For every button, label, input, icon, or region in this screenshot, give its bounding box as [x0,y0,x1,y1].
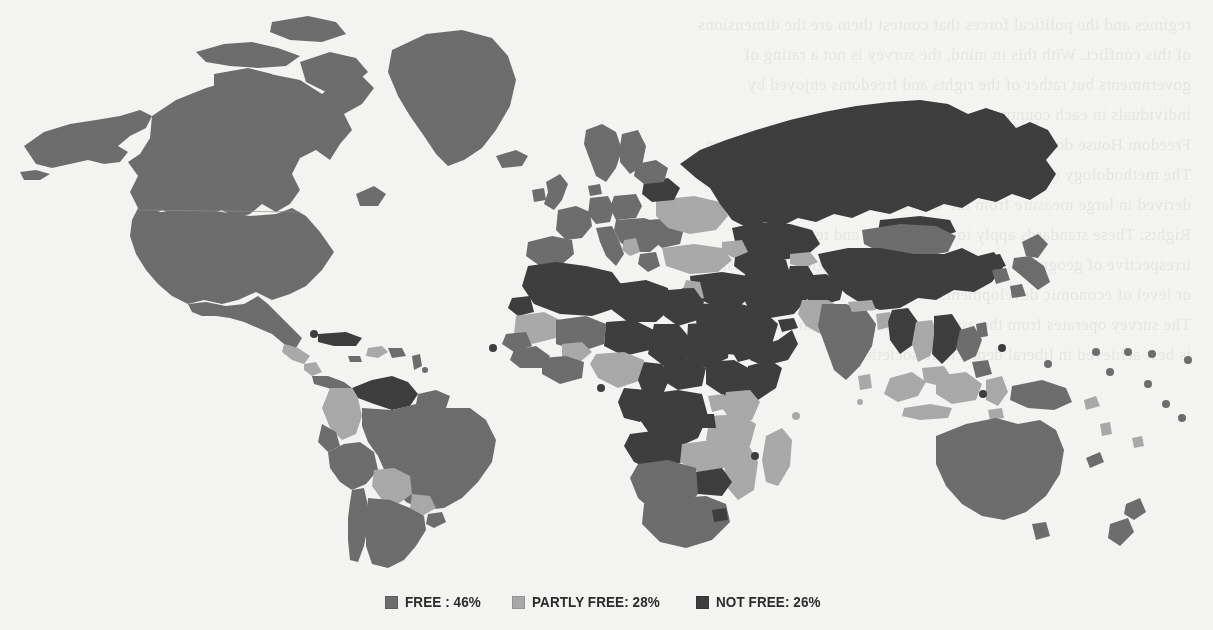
region-spain-portugal [526,236,574,266]
legend-item-free[interactable]: FREE : 46% [385,594,487,610]
region-south-africa [642,496,730,548]
region-ghana-ivory-coast [542,356,584,384]
world-map-svg: .f{fill:#6d6d6d;} /* FREE */ .p{fill:#a9… [0,4,1213,574]
region-island-state-dot [597,384,605,392]
region-island-state-dot [422,367,428,373]
region-island-state-dot [751,452,759,460]
region-philippines-south [972,360,992,378]
scanned-page: regimes and the political forces that co… [0,0,1213,630]
region-france [556,206,592,240]
region-china [818,248,1004,310]
region-libya [612,280,672,322]
region-island-state-dot [489,344,497,352]
legend-item-partly-free[interactable]: PARTLY FREE: 28% [512,594,670,610]
region-sri-lanka [858,374,872,390]
region-uae-qatar [778,318,798,332]
region-haiti [366,346,388,358]
region-india [818,304,876,380]
region-eswatini-lesotho [712,508,728,522]
legend-label-free: FREE : 46% [405,594,481,610]
region-island-state-dot [1148,350,1156,358]
region-indonesia-java [902,404,952,420]
region-united-states [130,208,334,304]
region-peru [328,442,378,490]
region-solomon-islands [1084,396,1100,410]
legend-swatch-not-free [696,596,709,609]
region-iceland [496,150,528,168]
region-chile [348,488,368,562]
region-greenland [388,30,516,166]
legend-item-not-free[interactable]: NOT FREE: 26% [696,594,829,610]
region-island-state-dot [310,330,318,338]
region-papua-new-guinea [1010,380,1072,410]
region-island-state-dot [1144,380,1152,388]
region-island-state-dot [1106,368,1114,376]
region-turkey [662,244,732,274]
region-uruguay [426,512,446,528]
region-aleutians [20,170,50,180]
region-baltic-states [634,160,668,184]
region-island-state-dot [792,412,800,420]
region-niger [604,320,654,356]
region-vanuatu [1100,422,1112,436]
region-indonesia-borneo [936,372,982,404]
region-malawi-mozambique [724,444,758,500]
region-new-caledonia [1086,452,1104,468]
region-island-state-dot [1178,414,1186,422]
region-vietnam-laos-cambodia [932,314,962,364]
region-kyrgyzstan [790,252,818,268]
region-cuba [318,332,362,346]
region-denmark [588,184,602,196]
region-newfoundland [356,186,386,206]
region-rwanda-burundi [702,414,716,428]
region-dominican-republic [388,348,406,358]
region-ellesmere [270,16,346,42]
legend-label-partly-free: PARTLY FREE: 28% [532,594,660,610]
legend-swatch-free [385,596,398,609]
region-united-kingdom [544,174,568,210]
region-australia [936,418,1064,520]
region-island-state-dot [1184,356,1192,364]
region-greece [638,252,660,272]
region-new-zealand-north [1124,498,1146,520]
region-western-sahara [508,296,534,316]
region-norway-sweden [584,124,622,182]
region-japan-kyushu [1010,284,1026,298]
region-nepal [848,300,876,312]
region-madagascar [762,428,792,486]
region-lesser-antilles [412,354,422,370]
region-ireland [532,188,546,202]
region-russia [680,100,1058,228]
region-indonesia-sumatra [884,372,926,402]
region-island-state-dot [979,390,987,398]
region-new-zealand-south [1108,518,1134,546]
region-island-state-dot [1124,348,1132,356]
region-canada [128,74,374,218]
region-tasmania [1032,522,1050,540]
region-south-korea [992,268,1010,284]
world-choropleth-map: .f{fill:#6d6d6d;} /* FREE */ .p{fill:#a9… [0,4,1213,574]
region-indonesia-sulawesi [986,376,1008,406]
region-moldova [676,214,690,226]
region-nicaragua [304,362,322,376]
legend-swatch-partly-free [512,596,525,609]
region-island-state-dot [1044,360,1052,368]
region-nigeria [590,352,644,388]
region-island-state-dot [998,344,1006,352]
region-japan [1022,234,1048,258]
region-island-state-dot [1092,348,1100,356]
region-venezuela [352,376,418,410]
map-legend: FREE : 46% PARTLY FREE: 28% NOT FREE: 26… [0,590,1213,614]
region-poland [610,194,642,220]
region-mexico [188,296,302,348]
region-island-state-dot [857,399,863,405]
region-canadian-arctic [196,42,300,68]
region-jamaica [348,356,362,362]
region-germany [588,196,614,224]
region-morocco-algeria-tunisia [522,262,624,316]
region-fiji [1132,436,1144,448]
region-island-state-dot [1162,400,1170,408]
legend-label-not-free: NOT FREE: 26% [716,594,821,610]
